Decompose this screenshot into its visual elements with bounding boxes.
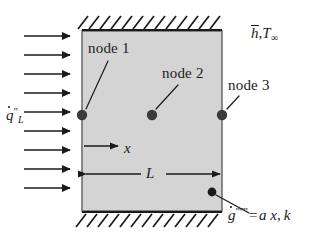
x-axis-label: x xyxy=(124,141,131,156)
convection-t-symbol: T xyxy=(262,25,270,41)
dimension-L-label: L xyxy=(146,166,154,181)
node-2-dot xyxy=(147,110,157,120)
generation-point-dot xyxy=(208,188,217,197)
generation-equals: = xyxy=(249,207,257,223)
node-3-label: node 3 xyxy=(228,78,270,93)
adiabatic-hatch-top xyxy=(78,16,222,30)
wall-body xyxy=(82,31,222,211)
generation-symbol: g xyxy=(228,208,236,223)
heat-flux-symbol: q xyxy=(6,108,14,123)
generation-separator: , xyxy=(277,207,281,223)
leader-node-3 xyxy=(227,96,239,109)
adiabatic-hatch-bottom xyxy=(76,212,222,227)
heat-flux-primes: " xyxy=(14,105,18,117)
heat-flux-arrows xyxy=(24,36,70,188)
thermal-conductivity-symbol: k xyxy=(284,207,291,223)
generation-expression: a x xyxy=(259,207,277,223)
heat-flux-label: q"L xyxy=(6,106,24,125)
node-1-label: node 1 xyxy=(88,41,130,56)
generation-primes: """ xyxy=(236,205,248,217)
figure-canvas xyxy=(0,0,332,240)
convection-label: h,T∞ xyxy=(251,25,278,43)
heat-flux-subscript: L xyxy=(18,114,24,125)
convection-h-symbol: h xyxy=(251,25,259,41)
node-3-dot xyxy=(217,110,227,120)
heat-transfer-wall-figure: q"L h,T∞ node 1 node 2 node 3 x L g"""=a… xyxy=(0,0,332,240)
generation-label: g"""=a x,k xyxy=(228,206,290,223)
node-1-dot xyxy=(77,110,87,120)
node-2-label: node 2 xyxy=(162,66,204,81)
convection-t-subscript: ∞ xyxy=(271,32,278,43)
